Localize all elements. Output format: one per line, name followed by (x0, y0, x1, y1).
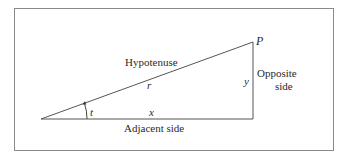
opposite-side-label-line2: side (275, 80, 293, 92)
angle-arc-icon (85, 104, 88, 120)
vertex-p-label: P (255, 34, 264, 48)
adjacent-var-label: x (148, 106, 154, 118)
adjacent-side-label: Adjacent side (124, 122, 184, 134)
hypotenuse-label: Hypotenuse (125, 56, 178, 68)
hypotenuse-var-label: r (147, 79, 152, 91)
opposite-var-label: y (243, 75, 249, 87)
right-triangle-diagram: P Hypotenuse r y Opposite side t x Adjac… (0, 0, 347, 161)
opposite-side-label-line1: Opposite (257, 67, 297, 79)
angle-var-label: t (90, 106, 94, 118)
